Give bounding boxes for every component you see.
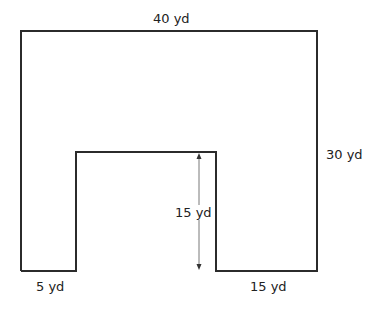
left-bottom-width-label: 5 yd [36, 280, 64, 293]
top-width-label: 40 yd [153, 12, 190, 25]
inner-height-label: 15 yd [175, 205, 212, 220]
shape-outline [21, 31, 317, 271]
right-bottom-width-label: 15 yd [250, 280, 287, 293]
u-shape-figure [0, 0, 375, 311]
right-height-label: 30 yd [326, 148, 363, 161]
